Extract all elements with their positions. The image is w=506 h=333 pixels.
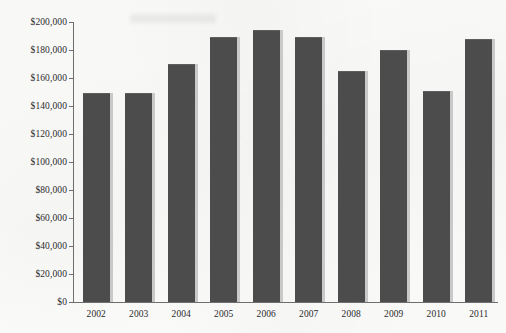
bar-slot — [210, 22, 237, 302]
y-tick-label: $0 — [57, 297, 67, 307]
x-tick-label: 2002 — [87, 309, 106, 319]
bar — [168, 64, 195, 302]
y-tick-label: $120,000 — [31, 129, 67, 139]
y-tick-label: $20,000 — [35, 269, 67, 279]
bar — [338, 71, 365, 302]
bar — [295, 37, 322, 302]
bar — [125, 93, 152, 302]
x-tick-label: 2011 — [469, 309, 488, 319]
bar-slot — [465, 22, 492, 302]
bar — [380, 50, 407, 302]
bar-slot — [168, 22, 195, 302]
bar — [253, 30, 280, 302]
bar-series — [73, 22, 498, 303]
y-tick-label: $200,000 — [31, 17, 67, 27]
plot-area: $0$20,000$40,000$60,000$80,000$100,000$1… — [73, 22, 498, 303]
y-tick-label: $100,000 — [31, 157, 67, 167]
x-tick-label: 2004 — [172, 309, 191, 319]
bar — [465, 39, 492, 302]
x-tick-label: 2010 — [427, 309, 446, 319]
x-tick-label: 2005 — [214, 309, 233, 319]
bar — [423, 91, 450, 302]
y-tick-label: $140,000 — [31, 101, 67, 111]
bar-slot — [380, 22, 407, 302]
x-tick-label: 2006 — [257, 309, 276, 319]
x-tick-label: 2008 — [342, 309, 361, 319]
y-tick-label: $40,000 — [35, 241, 67, 251]
y-tick-label: $60,000 — [35, 213, 67, 223]
x-tick-label: 2007 — [299, 309, 318, 319]
bar-slot — [295, 22, 322, 302]
bar-slot — [338, 22, 365, 302]
bar-slot — [423, 22, 450, 302]
y-tick-label: $180,000 — [31, 45, 67, 55]
bar-slot — [83, 22, 110, 302]
x-tick-label: 2003 — [129, 309, 148, 319]
y-tick-label: $80,000 — [35, 185, 67, 195]
bar-chart: $0$20,000$40,000$60,000$80,000$100,000$1… — [0, 0, 506, 333]
bar-slot — [125, 22, 152, 302]
bar — [83, 93, 110, 302]
bar — [210, 37, 237, 302]
bar-slot — [253, 22, 280, 302]
x-tick-label: 2009 — [384, 309, 403, 319]
y-tick-label: $160,000 — [31, 73, 67, 83]
